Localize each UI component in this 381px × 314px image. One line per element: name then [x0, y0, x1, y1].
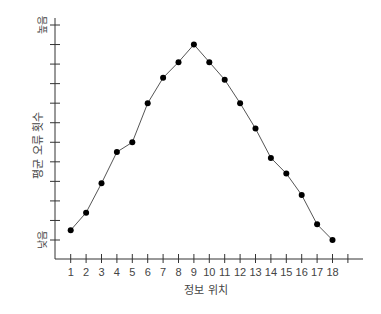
data-point [68, 227, 74, 233]
data-point [253, 126, 259, 132]
x-tick-label: 9 [191, 266, 197, 278]
x-tick-label: 11 [219, 266, 230, 278]
x-tick-label: 2 [83, 266, 89, 278]
y-high-label: 높음 [37, 16, 48, 34]
x-tick-label: 7 [160, 266, 166, 278]
data-point [191, 42, 197, 48]
data-point [176, 59, 182, 65]
data-point [160, 75, 166, 81]
series-line [71, 45, 333, 241]
x-tick-label: 16 [296, 266, 308, 278]
data-point [145, 100, 151, 106]
data-point [268, 155, 274, 161]
line-chart: 123456789101112131415161718 높음 낮음 평균 오류 … [0, 0, 381, 314]
x-tick-label: 6 [145, 266, 151, 278]
data-point [330, 237, 336, 243]
x-tick-label: 10 [203, 266, 215, 278]
data-point [129, 139, 135, 145]
y-axis-title: 평균 오류 횟수 [32, 112, 45, 179]
data-point [237, 100, 243, 106]
x-tick-label: 18 [326, 266, 338, 278]
data-point [83, 210, 89, 216]
data-point [283, 171, 289, 177]
data-point [222, 77, 228, 83]
data-point [299, 192, 305, 198]
x-tick-label: 12 [234, 266, 246, 278]
x-tick-label: 17 [311, 266, 323, 278]
x-tick-label: 15 [280, 266, 292, 278]
x-tick-label: 4 [114, 266, 120, 278]
x-tick-label: 5 [129, 266, 135, 278]
x-tick-label: 13 [249, 266, 261, 278]
data-point [314, 221, 320, 227]
x-tick-label: 3 [98, 266, 104, 278]
data-series [68, 42, 336, 243]
x-tick-label: 1 [68, 266, 74, 278]
y-low-label: 낮음 [37, 231, 48, 249]
chart-canvas: 123456789101112131415161718 높음 낮음 평균 오류 … [0, 0, 381, 314]
x-axis: 123456789101112131415161718 [55, 254, 363, 278]
data-point [99, 180, 105, 186]
x-tick-label: 8 [175, 266, 181, 278]
y-axis [50, 18, 60, 259]
x-tick-label: 14 [265, 266, 277, 278]
data-point [206, 59, 212, 65]
data-point [114, 149, 120, 155]
x-axis-title: 정보 위치 [184, 284, 228, 297]
